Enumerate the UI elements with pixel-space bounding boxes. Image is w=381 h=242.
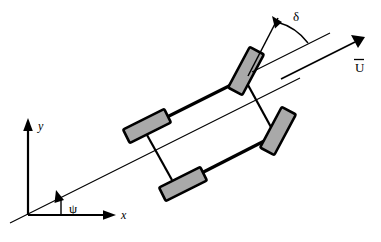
chassis-heading-reference-line	[252, 33, 330, 72]
rear-axle	[147, 135, 172, 180]
rear-right-wheel	[159, 167, 207, 201]
rear-left-wheel-body	[123, 109, 171, 143]
x-axis-arrowhead	[103, 210, 116, 220]
heading-angle-psi-group: ψ	[55, 190, 78, 216]
steering-angle-delta-group: δ	[248, 9, 330, 76]
front-axle	[248, 85, 272, 129]
velocity-vector-arrowhead	[351, 35, 365, 48]
x-axis-label: x	[120, 208, 127, 222]
rear-left-wheel	[123, 109, 171, 143]
velocity-vector-group: U	[281, 35, 365, 79]
velocity-vector-label: U	[355, 60, 365, 75]
vehicle-kinematics-diagram: y x ψ	[0, 0, 381, 242]
y-axis-label: y	[37, 119, 44, 133]
steering-angle-label: δ	[293, 9, 299, 24]
chassis-frame	[139, 79, 278, 185]
heading-angle-label: ψ	[69, 201, 77, 216]
rear-right-wheel-body	[159, 167, 207, 201]
diagram-canvas: y x ψ	[0, 0, 381, 242]
front-right-wheel-body	[260, 107, 296, 155]
delta-arc	[277, 22, 308, 43]
y-axis-arrowhead	[23, 118, 33, 131]
front-right-wheel	[260, 107, 296, 155]
velocity-vector-line	[281, 42, 355, 79]
